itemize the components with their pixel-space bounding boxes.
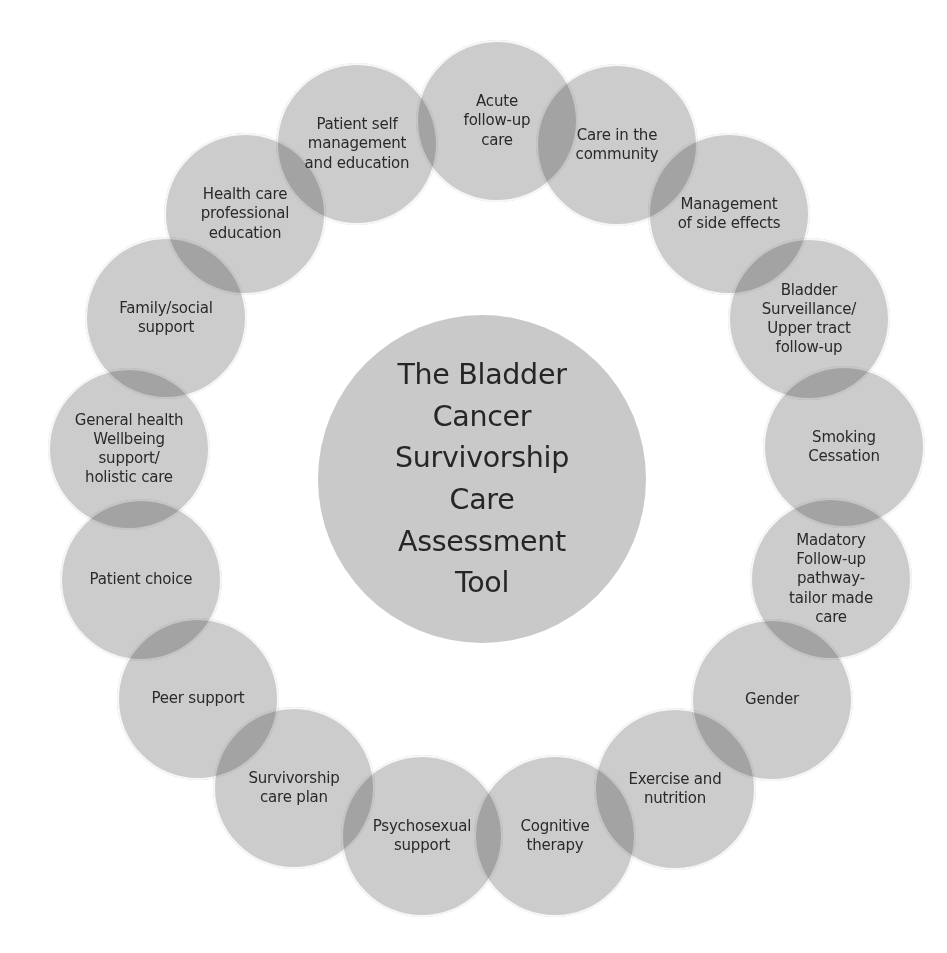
node-label: Gender [745, 690, 799, 709]
survivorship-care-diagram: The Bladder Cancer Survivorship Care Ass… [0, 0, 947, 953]
node-label: Family/social support [119, 299, 213, 337]
node-label: Peer support [151, 689, 244, 708]
node-label: Psychosexual support [373, 817, 472, 855]
center-circle-title: The Bladder Cancer Survivorship Care Ass… [318, 315, 646, 643]
center-title-text: The Bladder Cancer Survivorship Care Ass… [395, 354, 569, 604]
node-label: Cognitive therapy [520, 817, 589, 855]
node-label: Exercise and nutrition [628, 770, 721, 808]
node-patient-self-management: Patient self management and education [276, 63, 438, 225]
node-label: Management of side effects [678, 195, 781, 233]
node-label: Bladder Surveillance/ Upper tract follow… [762, 281, 856, 357]
node-label: Madatory Follow-up pathway- tailor made … [789, 531, 873, 626]
node-label: Care in the community [576, 126, 659, 164]
node-label: Health care professional education [201, 185, 290, 242]
node-label: Patient choice [90, 570, 193, 589]
node-label: Survivorship care plan [248, 769, 339, 807]
node-label: General health Wellbeing support/ holist… [75, 411, 184, 487]
node-label: Patient self management and education [305, 115, 410, 172]
node-label: Smoking Cessation [808, 428, 879, 466]
node-label: Acute follow-up care [464, 92, 531, 149]
